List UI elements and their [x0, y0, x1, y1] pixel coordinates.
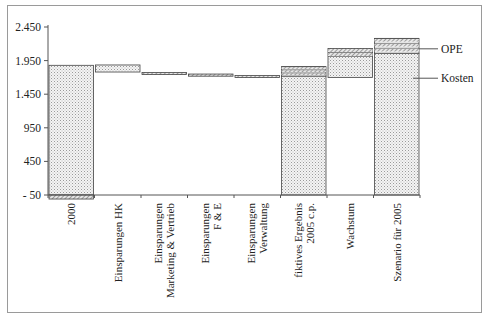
y-axis: 2.4501.9501.450950450- 50 — [15, 21, 48, 201]
x-tick-label: 2005 c.p. — [304, 203, 316, 244]
bar-einsparungen-f-e — [189, 74, 234, 76]
bar-wachstum — [328, 49, 373, 78]
y-tick-label: - 50 — [23, 189, 41, 201]
x-tick-label: F & E — [211, 203, 223, 230]
y-tick-label: 2.450 — [15, 21, 41, 33]
bar-einsparungen-marketing-vertrieb — [142, 73, 187, 75]
legend: OPEKosten — [413, 43, 474, 84]
legend-ope: OPE — [441, 43, 463, 55]
y-tick-label: 1.950 — [15, 55, 41, 67]
bar-szenario-f-r-2005 — [375, 38, 420, 195]
bar-fiktives-ergebnis-2005-c-p- — [282, 67, 327, 195]
y-tick-label: 950 — [24, 122, 42, 134]
x-tick-label: Wachstum — [344, 203, 356, 250]
x-tick-label: Einsparungen — [152, 203, 164, 264]
bar-einsparungen-verwaltung — [235, 76, 280, 78]
x-axis: 2000Einsparungen HKEinsparungenMarketing… — [48, 195, 420, 298]
x-tick-label: fiktives Ergebnis — [292, 203, 304, 278]
bar-2000 — [49, 65, 94, 199]
y-tick-label: 450 — [24, 155, 42, 167]
legend-kosten: Kosten — [441, 72, 474, 84]
x-tick-label: Einsparungen — [199, 203, 211, 264]
x-tick-label: Einsparungen — [245, 203, 257, 264]
x-tick-label: Verwaltung — [257, 203, 269, 254]
bars — [49, 38, 419, 199]
x-tick-label: 2000 — [65, 203, 77, 226]
waterfall-chart: 2.4501.9501.450950450- 50 2000Einsparung… — [0, 0, 490, 321]
y-tick-label: 1.450 — [15, 88, 41, 100]
bar-einsparungen-hk — [96, 65, 141, 72]
x-tick-label: Einsparungen HK — [112, 203, 124, 282]
x-tick-label: Szenario für 2005 — [391, 203, 403, 282]
x-tick-label: Marketing & Vertrieb — [164, 203, 176, 299]
